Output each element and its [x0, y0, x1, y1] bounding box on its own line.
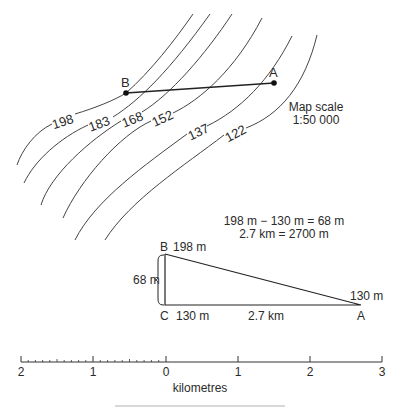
contour-label-168: 168 — [120, 108, 146, 130]
triangle-c-height: 130 m — [176, 309, 209, 323]
point-a-label: A — [269, 65, 278, 80]
scale-tick-label: 2 — [307, 365, 314, 379]
map-scale-ratio: 1:50 000 — [293, 113, 340, 127]
point-a-marker — [271, 80, 277, 86]
caption-illegible — [115, 405, 285, 407]
point-b-label: B — [121, 75, 130, 90]
contour-168 — [41, 121, 121, 205]
contour-152 — [63, 121, 151, 218]
contour-label-198: 198 — [50, 111, 75, 132]
scale-bar-unit: kilometres — [173, 381, 228, 395]
contour-label-122: 122 — [222, 122, 248, 145]
triangle-a-label: A — [357, 309, 365, 323]
point-b-marker — [123, 90, 129, 96]
triangle-b-label: B — [160, 240, 168, 254]
triangle-b-height: 198 m — [173, 240, 206, 254]
triangle-horizontal-label: 2.7 km — [248, 309, 284, 323]
contour-198 — [17, 124, 52, 165]
map-scale-title: Map scale — [289, 100, 344, 114]
contour-label-183: 183 — [86, 113, 112, 135]
triangle-a-height: 130 m — [350, 289, 383, 303]
calculation-line-2: 2.7 km = 2700 m — [239, 227, 329, 241]
scale-tick-label: 1 — [90, 365, 97, 379]
triangle-c-label: C — [160, 309, 169, 323]
scale-bar — [21, 356, 382, 362]
triangle-vertical-label: 68 m — [133, 273, 160, 287]
gradient-diagram: 198 183 168 152 137 122 B A Map scale 1:… — [0, 0, 401, 410]
contour-137 — [75, 134, 187, 240]
contour-label-152: 152 — [149, 107, 175, 130]
scale-tick-label: 2 — [18, 365, 25, 379]
scale-tick-label: 1 — [235, 365, 242, 379]
scale-bar-labels: 2 1 0 1 2 3 — [18, 365, 386, 379]
gradient-triangle — [155, 254, 361, 305]
contour-label-137: 137 — [185, 121, 211, 144]
scale-tick-label: 3 — [379, 365, 386, 379]
scale-tick-label: 0 — [163, 365, 170, 379]
calculation-line-1: 198 m − 130 m = 68 m — [224, 214, 345, 228]
